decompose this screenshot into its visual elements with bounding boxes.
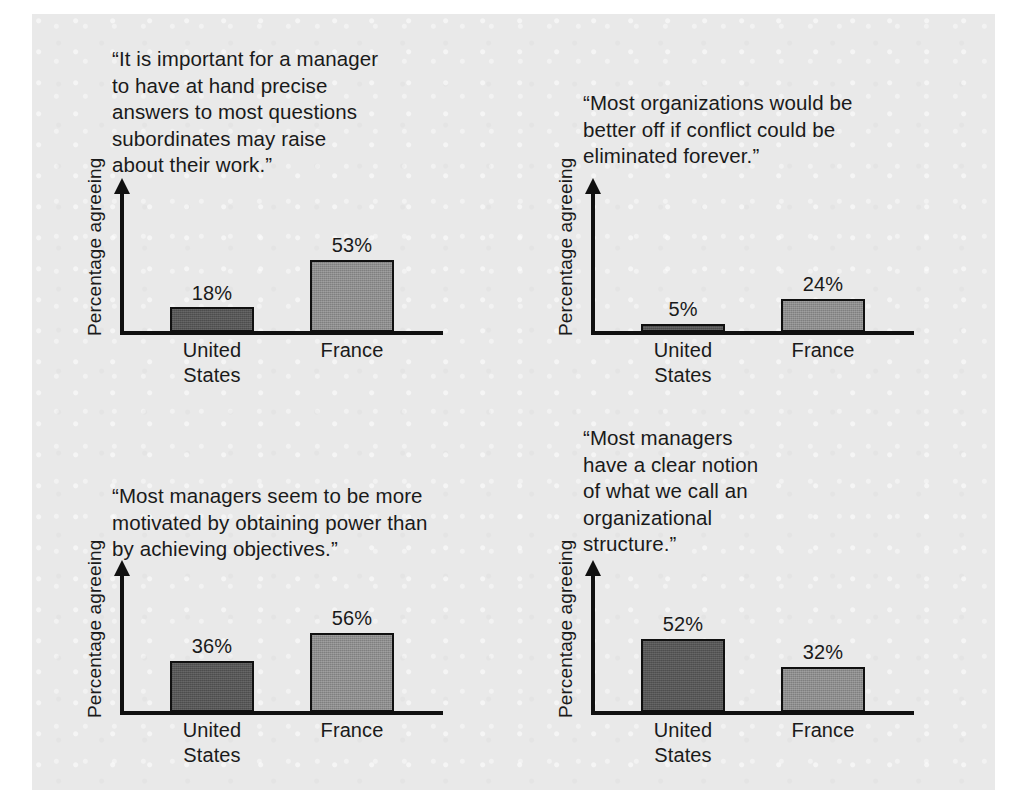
y-axis-line: [591, 192, 595, 335]
y-axis-label: Percentage agreeing: [84, 158, 106, 336]
bar-value-france: 24%: [773, 273, 873, 296]
category-label-united-states: United States: [633, 338, 733, 388]
bar-value-france: 32%: [773, 641, 873, 664]
x-axis-line: [120, 711, 443, 715]
bar-france: [781, 667, 865, 712]
bar-value-united-states: 5%: [633, 298, 733, 321]
y-axis-label: Percentage agreeing: [555, 158, 577, 336]
figure-root: “It is important for a manager to have a…: [0, 0, 1027, 806]
chart-organizational-structure: “Most managers have a clear notion of wh…: [470, 400, 1027, 806]
bar-value-united-states: 18%: [162, 282, 262, 305]
category-label-france: France: [302, 338, 402, 363]
category-label-united-states: United States: [162, 338, 262, 388]
bar-france: [781, 299, 865, 332]
plot-area: Percentage agreeing 18% 53% United State…: [0, 0, 500, 400]
category-label-france: France: [302, 718, 402, 743]
x-axis-line: [591, 711, 914, 715]
plot-area: Percentage agreeing 52% 32% United State…: [470, 400, 1027, 806]
bar-value-france: 56%: [302, 607, 402, 630]
bar-value-united-states: 36%: [162, 635, 262, 658]
x-axis-line: [120, 331, 443, 335]
bar-united-states: [170, 661, 254, 712]
chart-power-vs-objectives: “Most managers seem to be more motivated…: [0, 400, 500, 806]
y-axis-label: Percentage agreeing: [84, 540, 106, 718]
bar-france: [310, 260, 394, 332]
chart-precise-answers: “It is important for a manager to have a…: [0, 0, 500, 400]
bar-value-france: 53%: [302, 234, 402, 257]
x-axis-line: [591, 331, 914, 335]
y-axis-line: [120, 192, 124, 335]
bar-value-united-states: 52%: [633, 613, 733, 636]
bar-united-states: [641, 324, 725, 332]
plot-area: Percentage agreeing 36% 56% United State…: [0, 400, 500, 806]
plot-area: Percentage agreeing 5% 24% United States…: [470, 0, 1027, 400]
y-axis-line: [120, 574, 124, 713]
y-axis-line: [591, 574, 595, 713]
bar-united-states: [170, 307, 254, 332]
bar-united-states: [641, 639, 725, 712]
y-axis-label: Percentage agreeing: [555, 540, 577, 718]
category-label-united-states: United States: [633, 718, 733, 768]
chart-conflict-eliminated: “Most organizations would be better off …: [470, 0, 1027, 400]
category-label-france: France: [773, 338, 873, 363]
category-label-france: France: [773, 718, 873, 743]
bar-france: [310, 633, 394, 712]
category-label-united-states: United States: [162, 718, 262, 768]
